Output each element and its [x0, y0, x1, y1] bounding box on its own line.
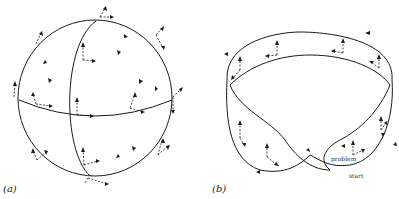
panel-b-label: (b)	[212, 183, 226, 194]
problem-annotation: problem	[331, 155, 356, 162]
sphere-diagram	[0, 0, 200, 199]
panel-b-mobius: problem start (b)	[200, 0, 399, 199]
panel-a-label: (a)	[3, 183, 17, 194]
start-annotation: start	[349, 172, 363, 179]
panel-a-sphere: (a)	[0, 0, 200, 199]
mobius-diagram	[200, 0, 399, 199]
